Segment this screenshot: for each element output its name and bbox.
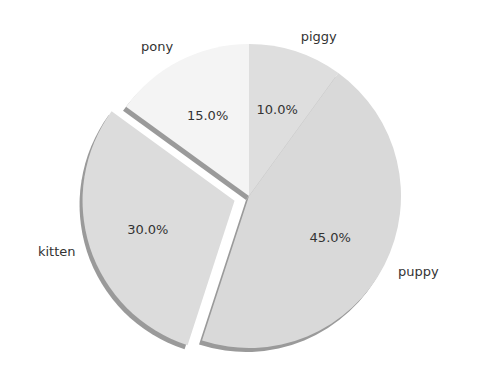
pie-chart: pony15.0%kitten30.0%puppy45.0%piggy10.0% [0, 0, 479, 369]
percent-label-puppy: 45.0% [310, 230, 351, 245]
category-label-kitten: kitten [38, 244, 76, 259]
category-label-puppy: puppy [398, 264, 439, 279]
category-label-piggy: piggy [301, 29, 337, 44]
percent-label-kitten: 30.0% [127, 222, 168, 237]
percent-label-piggy: 10.0% [257, 102, 298, 117]
percent-label-pony: 15.0% [187, 108, 228, 123]
category-label-pony: pony [141, 39, 173, 54]
